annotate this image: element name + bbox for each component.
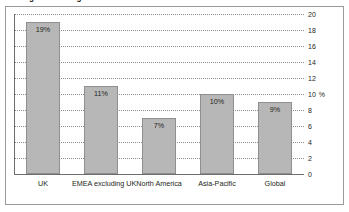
y-axis-tick: 8 (308, 107, 312, 114)
bar-value-label: 11% (85, 90, 118, 97)
x-axis-tick-label: Global (246, 180, 304, 187)
bar: 10% (200, 94, 235, 174)
x-axis-tick-label: EMEA excluding UK (72, 180, 130, 187)
x-axis-tick-label: UK (14, 180, 72, 187)
chart-title: Average Percentage of Total Workforce (6, 0, 306, 3)
y-axis-tick-labels: 201816141210%86420 (308, 14, 342, 174)
gridline (14, 174, 304, 175)
y-axis-tick: 14 (308, 59, 316, 66)
y-axis-tick: 2 (308, 155, 312, 162)
x-axis-tick-label: Asia-Pacific (188, 180, 246, 187)
y-axis-tick-value: 4 (308, 139, 312, 146)
bar: 19% (26, 22, 61, 174)
y-axis-tick: 18 (308, 27, 316, 34)
y-axis-tick-value: 6 (308, 123, 312, 130)
y-axis-tick: 0 (308, 171, 312, 178)
bar-value-label: 19% (27, 26, 60, 33)
y-axis-tick-value: 14 (308, 59, 316, 66)
chart-figure: Average Percentage of Total Workforce 19… (0, 0, 349, 212)
bar: 7% (142, 118, 177, 174)
y-axis-tick: 12 (308, 75, 316, 82)
y-axis-tick-value: 0 (308, 171, 312, 178)
y-axis-tick-value: 20 (308, 11, 316, 18)
plot-area: 19%11%7%10%9% (14, 14, 304, 174)
x-axis-tick-label: North America (130, 180, 188, 187)
y-axis-tick: 6 (308, 123, 312, 130)
bar-value-label: 9% (259, 106, 292, 113)
y-axis-tick-value: 12 (308, 75, 316, 82)
bar: 9% (258, 102, 293, 174)
y-axis-tick: 4 (308, 139, 312, 146)
y-axis-tick: 20 (308, 11, 316, 18)
y-axis-tick: 10% (308, 91, 325, 98)
y-axis-tick-value: 18 (308, 27, 316, 34)
y-axis-spine (14, 14, 15, 174)
y-axis-tick-value: 16 (308, 43, 316, 50)
y-axis-tick-value: 2 (308, 155, 312, 162)
bar-value-label: 7% (143, 122, 176, 129)
bar: 11% (84, 86, 119, 174)
x-axis-tick-labels: UKEMEA excluding UKNorth AmericaAsia-Pac… (14, 180, 304, 194)
y-axis-tick-value: 8 (308, 107, 312, 114)
bar-value-label: 10% (201, 98, 234, 105)
y-axis-unit: % (319, 91, 325, 98)
y-axis-tick: 16 (308, 43, 316, 50)
y-axis-tick-value: 10 (308, 91, 316, 98)
bar-series: 19%11%7%10%9% (14, 14, 304, 174)
